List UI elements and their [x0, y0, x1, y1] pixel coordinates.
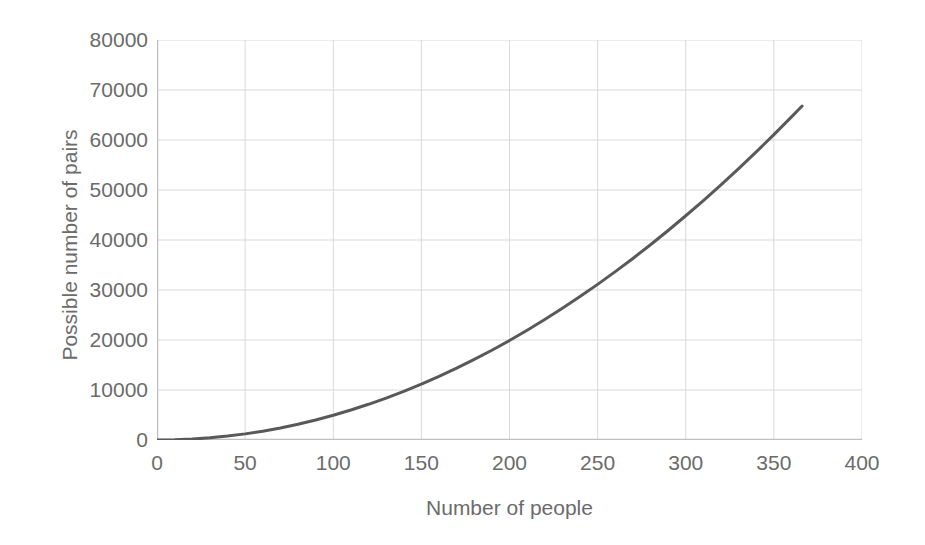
y-axis-title: Possible number of pairs — [58, 45, 82, 445]
x-tick-label: 100 — [293, 452, 373, 473]
x-axis-title: Number of people — [157, 496, 862, 520]
x-tick-label: 300 — [646, 452, 726, 473]
grid-lines — [157, 40, 862, 440]
x-tick-label: 350 — [734, 452, 814, 473]
x-tick-label: 400 — [822, 452, 902, 473]
x-tick-label: 0 — [117, 452, 197, 473]
chart-figure: 0100002000030000400005000060000700008000… — [0, 0, 925, 545]
x-tick-label: 150 — [381, 452, 461, 473]
x-tick-label: 200 — [470, 452, 550, 473]
plot-area — [157, 40, 862, 440]
x-tick-label: 250 — [558, 452, 638, 473]
x-tick-label: 50 — [205, 452, 285, 473]
plot-canvas — [157, 40, 862, 440]
x-axis-tick-labels: 050100150200250300350400 — [0, 452, 925, 482]
